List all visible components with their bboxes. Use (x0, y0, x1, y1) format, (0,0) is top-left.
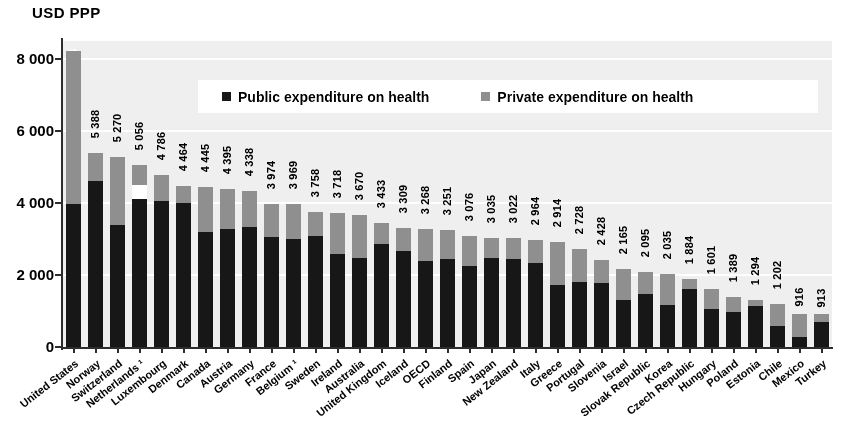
bar-column[interactable] (572, 249, 587, 347)
bar-segment-public[interactable] (638, 294, 653, 347)
bar-segment-private[interactable] (198, 187, 213, 232)
bar-segment-public[interactable] (396, 251, 411, 347)
bar-segment-public[interactable] (286, 239, 301, 347)
bar-segment-private[interactable] (352, 215, 367, 258)
bar-segment-public[interactable] (418, 261, 433, 347)
bar-column[interactable] (814, 314, 829, 347)
bar-segment-private[interactable] (66, 51, 81, 205)
bar-segment-public[interactable] (220, 229, 235, 347)
bar-column[interactable] (308, 212, 323, 347)
bar-segment-private[interactable] (286, 204, 301, 239)
bar-column[interactable] (330, 213, 345, 347)
bar-segment-public[interactable] (352, 258, 367, 347)
bar-column[interactable] (660, 274, 675, 347)
bar-segment-private[interactable] (154, 175, 169, 201)
bar-segment-public[interactable] (176, 203, 191, 347)
bar-column[interactable] (682, 279, 697, 347)
bar-column[interactable] (286, 204, 301, 347)
bar-segment-private[interactable] (220, 189, 235, 229)
bar-segment-public[interactable] (726, 312, 741, 347)
bar-segment-private[interactable] (528, 240, 543, 263)
bar-segment-private[interactable] (726, 297, 741, 312)
bar-segment-private[interactable] (594, 260, 609, 284)
bar-segment-public[interactable] (660, 305, 675, 347)
bar-segment-private[interactable] (770, 304, 785, 327)
bar-segment-public[interactable] (154, 201, 169, 347)
bar-column[interactable] (792, 314, 807, 347)
bar-column[interactable] (594, 260, 609, 347)
bar-column[interactable] (352, 215, 367, 347)
bar-column[interactable] (704, 289, 719, 347)
bar-segment-private[interactable] (242, 191, 257, 227)
bar-segment-public[interactable] (814, 322, 829, 347)
bar-column[interactable] (110, 157, 125, 347)
bar-segment-private[interactable] (550, 242, 565, 285)
bar-column[interactable] (264, 204, 279, 347)
bar-column[interactable] (550, 242, 565, 347)
bar-segment-public[interactable] (374, 244, 389, 347)
bar-segment-private[interactable] (396, 228, 411, 251)
bar-segment-private[interactable] (440, 230, 455, 259)
bar-segment-private[interactable] (330, 213, 345, 254)
bar-segment-public[interactable] (330, 254, 345, 347)
bar-column[interactable] (66, 51, 81, 347)
bar-column[interactable] (528, 240, 543, 347)
bar-column[interactable] (374, 223, 389, 347)
bar-segment-public[interactable] (616, 300, 631, 347)
bar-segment-public[interactable] (506, 259, 521, 347)
bar-segment-private[interactable] (88, 153, 103, 181)
bar-segment-public[interactable] (550, 285, 565, 347)
bar-column[interactable] (154, 175, 169, 347)
bar-segment-private[interactable] (704, 289, 719, 308)
bar-segment-private[interactable] (110, 157, 125, 225)
bar-segment-public[interactable] (572, 282, 587, 347)
bar-segment-private[interactable] (176, 186, 191, 203)
bar-segment-private[interactable] (572, 249, 587, 283)
bar-column[interactable] (440, 230, 455, 347)
bar-segment-public[interactable] (462, 266, 477, 347)
bar-segment-public[interactable] (594, 283, 609, 347)
bar-segment-public[interactable] (132, 199, 147, 347)
bar-segment-public[interactable] (770, 326, 785, 347)
bar-segment-private[interactable] (638, 272, 653, 295)
bar-segment-public[interactable] (66, 204, 81, 347)
bar-segment-private[interactable] (814, 314, 829, 322)
bar-column[interactable] (462, 236, 477, 347)
bar-segment-private[interactable] (660, 274, 675, 305)
bar-segment-public[interactable] (198, 232, 213, 347)
bar-column[interactable] (132, 165, 147, 347)
bar-segment-public[interactable] (682, 289, 697, 347)
bar-segment-public[interactable] (308, 236, 323, 347)
bar-segment-private[interactable] (616, 269, 631, 300)
bar-segment-public[interactable] (242, 227, 257, 347)
bar-segment-public[interactable] (440, 259, 455, 347)
bar-column[interactable] (616, 269, 631, 347)
bar-segment-public[interactable] (528, 263, 543, 347)
bar-segment-public[interactable] (704, 309, 719, 347)
bar-segment-private[interactable] (264, 204, 279, 237)
bar-segment-public[interactable] (792, 337, 807, 347)
bar-segment-public[interactable] (264, 237, 279, 347)
bar-column[interactable] (176, 186, 191, 347)
bar-column[interactable] (418, 229, 433, 347)
bar-column[interactable] (88, 153, 103, 347)
bar-segment-private[interactable] (682, 279, 697, 289)
bar-column[interactable] (638, 272, 653, 347)
bar-segment-private[interactable] (418, 229, 433, 261)
bar-column[interactable] (726, 297, 741, 347)
bar-segment-private[interactable] (506, 238, 521, 258)
bar-segment-public[interactable] (110, 225, 125, 347)
bar-column[interactable] (242, 191, 257, 347)
bar-segment-private[interactable] (308, 212, 323, 236)
bar-segment-private[interactable] (462, 236, 477, 265)
bar-column[interactable] (506, 238, 521, 347)
bar-column[interactable] (198, 187, 213, 347)
bar-segment-public[interactable] (748, 306, 763, 347)
bar-segment-public[interactable] (88, 181, 103, 347)
bar-column[interactable] (748, 300, 763, 347)
bar-column[interactable] (220, 189, 235, 347)
bar-segment-private[interactable] (374, 223, 389, 244)
bar-column[interactable] (396, 228, 411, 347)
bar-column[interactable] (770, 304, 785, 347)
bar-column[interactable] (484, 238, 499, 347)
